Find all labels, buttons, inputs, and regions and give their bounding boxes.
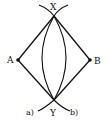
label-x: X xyxy=(50,2,57,12)
label-arc-a: a) xyxy=(26,108,34,117)
segment-ax xyxy=(18,16,54,60)
label-a: A xyxy=(6,55,14,65)
arc-b xyxy=(39,5,70,111)
arc-a xyxy=(38,5,68,111)
segment-ay xyxy=(18,60,54,100)
point-b-dot xyxy=(88,58,92,62)
label-b: B xyxy=(94,56,101,66)
segment-xb xyxy=(54,16,90,60)
label-y: Y xyxy=(49,108,57,118)
point-a-dot xyxy=(16,58,20,62)
label-arc-b: b) xyxy=(70,108,78,117)
construction-diagram: X Y A B a) b) xyxy=(0,0,109,122)
diagram-canvas: X Y A B a) b) xyxy=(0,0,109,122)
segment-yb xyxy=(54,60,90,100)
